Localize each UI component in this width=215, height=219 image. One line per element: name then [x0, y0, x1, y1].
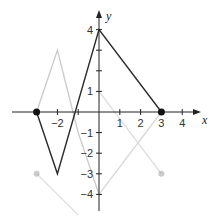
x-tick-label: 2 — [138, 117, 144, 129]
closed-endpoint — [158, 109, 165, 116]
faint-trace-3 — [99, 91, 161, 173]
y-tick-label: −3 — [80, 168, 93, 180]
y-axis-label: y — [105, 9, 112, 23]
faint-point — [158, 171, 164, 177]
x-tick-label: −2 — [51, 117, 64, 129]
faint-point — [34, 171, 40, 177]
y-tick-label: −2 — [80, 147, 93, 159]
x-tick-label: 1 — [117, 117, 123, 129]
y-tick-label: 4 — [87, 24, 93, 36]
y-tick-label: −1 — [80, 127, 93, 139]
closed-endpoint — [33, 109, 40, 116]
x-axis-label: x — [201, 113, 208, 127]
chart-canvas: −2123441−1−2−3−4xy — [0, 0, 215, 219]
faint-trace-2 — [99, 112, 161, 194]
faint-trace-4 — [37, 174, 79, 215]
x-tick-label: 3 — [158, 117, 164, 129]
y-tick-label: 1 — [87, 85, 93, 97]
x-tick-label: 4 — [179, 117, 185, 129]
tick-labels: −2123441−1−2−3−4xy — [51, 9, 208, 200]
y-tick-label: −4 — [80, 188, 93, 200]
